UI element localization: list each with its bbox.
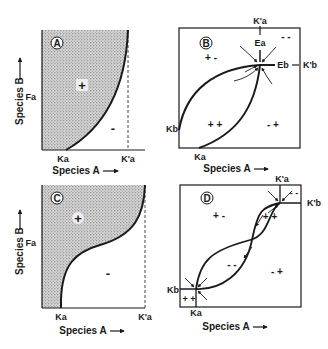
- panel-b-label-eb: Eb: [277, 60, 289, 70]
- panel-b-region-minus-minus: - -: [281, 31, 290, 42]
- panel-b-region-plus-minus: + -: [205, 52, 217, 63]
- panel-b-isocline-b: [179, 65, 275, 130]
- panel-c-x-label: Species A: [59, 325, 106, 336]
- panel-c-plus-sign: +: [74, 211, 82, 226]
- panel-b-label-kb-prime: K'b: [303, 60, 318, 70]
- panel-d-label-kb: Kb: [167, 285, 179, 295]
- panel-b-frame: [179, 28, 300, 148]
- panel-b-region-minus-plus: - +: [267, 119, 279, 130]
- panel-d-label-ka: Ka: [190, 308, 202, 318]
- panel-d-region-minus-minus-mid: - -: [227, 259, 236, 270]
- panel-a-x-tick-ka-prime: K'a: [121, 154, 136, 164]
- panel-d-region-plus-plus-bottom: + +: [182, 294, 195, 304]
- panel-a: A + - Fa Ka K'a Species A Species B: [14, 30, 145, 176]
- panel-c-x-tick-ka-prime: K'a: [138, 312, 153, 322]
- panel-a-plus-sign: +: [78, 78, 86, 93]
- panel-c: C + - Fa Ka K'a Species A Species B: [14, 185, 153, 336]
- panel-d-region-minus-plus: - +: [271, 266, 283, 277]
- panel-c-badge: C: [53, 193, 60, 204]
- panel-d-badge: D: [203, 193, 210, 204]
- panel-b-badge: B: [202, 38, 209, 49]
- panel-b-isocline-a: [199, 65, 260, 148]
- panel-d-region-plus-plus-mid: + +: [263, 211, 278, 222]
- panel-d-top-tick: K'a: [275, 174, 290, 184]
- panel-a-y-label: Species B: [14, 77, 25, 125]
- panel-a-y-tick-fa: Fa: [25, 92, 36, 102]
- panel-d-x-label: Species A: [202, 321, 249, 332]
- panel-b-region-plus-plus: + +: [208, 119, 223, 130]
- panel-a-badge-label: A: [53, 38, 60, 49]
- panel-a-x-tick-ka: Ka: [57, 154, 69, 164]
- panel-a-minus-sign: -: [111, 121, 115, 136]
- panel-b: K'a Ea - - + - + + - + Eb K'b Kb Ka B Sp…: [166, 16, 318, 174]
- panel-c-y-tick-fa: Fa: [25, 238, 36, 248]
- panel-b-top-tick: K'a: [253, 16, 268, 26]
- panel-c-x-tick-ka: Ka: [55, 312, 67, 322]
- panel-b-x-label: Species A: [203, 163, 250, 174]
- panel-d: K'a - - K'b Kb + + Ka + - + + - - - + D …: [167, 174, 322, 332]
- figure-canvas: A + - Fa Ka K'a Species A Species B K'a …: [0, 0, 328, 349]
- panel-b-label-ka: Ka: [194, 152, 206, 162]
- panel-c-minus-sign: -: [106, 266, 110, 281]
- panel-d-label-kb-prime: K'b: [307, 198, 322, 208]
- panel-b-label-kb: Kb: [166, 124, 178, 134]
- panel-c-y-label: Species B: [14, 227, 25, 275]
- panel-b-label-ea: Ea: [254, 38, 266, 48]
- panel-a-x-label: Species A: [52, 165, 99, 176]
- panel-d-region-minus-minus-top: - -: [290, 188, 299, 198]
- panel-d-region-plus-minus: + -: [213, 210, 225, 221]
